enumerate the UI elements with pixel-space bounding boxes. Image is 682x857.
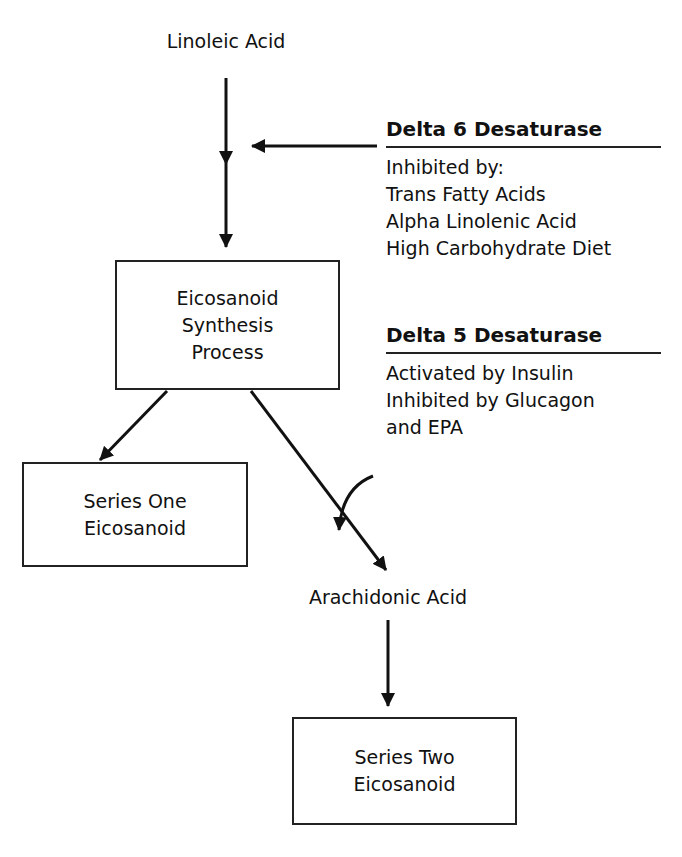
series-two-line-1: Series Two	[354, 744, 454, 771]
series-one-line-1: Series One	[83, 488, 186, 515]
delta5-line-1: Activated by Insulin	[386, 360, 661, 387]
series-one-line-2: Eicosanoid	[84, 515, 186, 542]
enzyme-delta6-title: Delta 6 Desaturase	[386, 116, 661, 143]
node-linoleic-acid: Linoleic Acid	[146, 28, 306, 55]
enzyme-delta6-rule	[386, 146, 661, 148]
node-arachidonic-acid: Arachidonic Acid	[300, 584, 476, 611]
arrow-delta5-curved-pointer	[339, 476, 373, 530]
synthesis-line-1: Eicosanoid	[177, 285, 279, 312]
node-eicosanoid-synthesis-process: Eicosanoid Synthesis Process	[115, 260, 340, 390]
delta5-line-2: Inhibited by Glucagon	[386, 387, 661, 414]
arrow-synthesis-to-series-one	[100, 391, 167, 460]
synthesis-line-2: Synthesis	[182, 312, 274, 339]
enzyme-delta6-panel: Delta 6 Desaturase Inhibited by: Trans F…	[386, 116, 661, 262]
delta6-line-2: Trans Fatty Acids	[386, 181, 661, 208]
delta6-line-3: Alpha Linolenic Acid	[386, 208, 661, 235]
node-series-one-eicosanoid: Series One Eicosanoid	[22, 462, 248, 567]
enzyme-delta5-title: Delta 5 Desaturase	[386, 322, 661, 349]
enzyme-delta5-panel: Delta 5 Desaturase Activated by Insulin …	[386, 322, 661, 441]
enzyme-delta5-rule	[386, 352, 661, 354]
delta6-line-1: Inhibited by:	[386, 154, 661, 181]
series-two-line-2: Eicosanoid	[354, 771, 456, 798]
node-series-two-eicosanoid: Series Two Eicosanoid	[292, 717, 517, 825]
delta6-line-4: High Carbohydrate Diet	[386, 235, 661, 262]
delta5-line-3: and EPA	[386, 414, 661, 441]
synthesis-line-3: Process	[191, 339, 263, 366]
